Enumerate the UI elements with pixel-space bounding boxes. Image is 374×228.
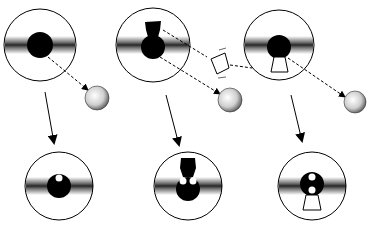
dashed-line <box>230 65 252 68</box>
transition-arrow <box>166 95 179 145</box>
transition-arrow <box>45 92 54 143</box>
cell-3-bottom <box>278 152 346 220</box>
emitted-sphere <box>344 91 366 113</box>
core-hole <box>180 178 187 185</box>
cell-1-bottom <box>25 152 93 220</box>
emitted-sphere <box>218 88 242 112</box>
core-hole <box>190 178 197 185</box>
keyhole-cap <box>145 21 161 37</box>
core-hole <box>56 175 63 182</box>
cell-2-top <box>116 8 190 82</box>
transition-arrow <box>291 95 302 141</box>
core-hole <box>309 174 316 181</box>
trapezoid-insert <box>271 57 288 72</box>
cell-1-top <box>4 9 76 81</box>
dashed-arrow <box>288 58 345 97</box>
diagram-stage <box>0 0 374 228</box>
emitted-sphere <box>85 86 109 110</box>
keyhole-cap <box>180 158 196 177</box>
diagram-canvas <box>0 0 374 228</box>
core <box>141 35 165 59</box>
cell-2-bottom <box>154 152 222 220</box>
core-hole <box>309 187 316 194</box>
cell-3-top <box>244 10 314 80</box>
core <box>267 35 291 59</box>
emitted-trapezoid <box>211 48 229 78</box>
trapezoid-insert <box>303 195 321 210</box>
core <box>27 32 53 58</box>
